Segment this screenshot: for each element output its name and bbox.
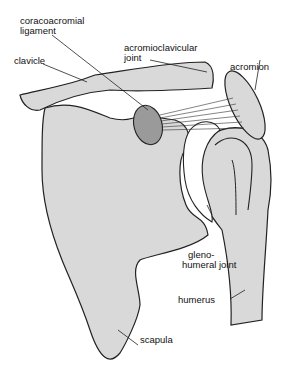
label-clavicle: clavicle: [14, 56, 45, 66]
label-humerus: humerus: [178, 295, 215, 305]
label-acromioclavicular-joint: acromioclavicular joint: [124, 43, 197, 63]
label-line: ligament: [20, 26, 84, 36]
label-line: humeral joint: [182, 260, 236, 270]
scapula-shape: [42, 105, 208, 359]
label-coracoacromial-ligament: coracoacromial ligament: [20, 16, 84, 36]
label-acromion: acromion: [230, 62, 269, 72]
label-scapula: scapula: [140, 335, 173, 345]
label-glenohumeral-joint: gleno- humeral joint: [182, 250, 236, 270]
label-line: joint: [124, 53, 197, 63]
clavicle-shape: [20, 62, 213, 110]
